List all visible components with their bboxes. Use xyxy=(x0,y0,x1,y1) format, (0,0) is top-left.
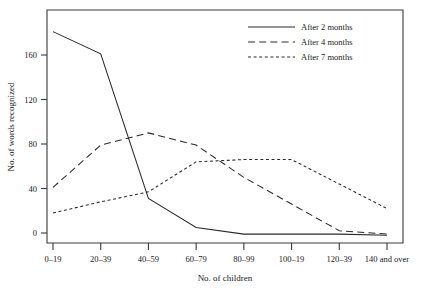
series-line-2 xyxy=(53,133,387,234)
legend-label-3: After 7 months xyxy=(301,52,352,62)
y-tick-label: 80 xyxy=(29,139,38,149)
x-tick-label: 100–19 xyxy=(279,254,305,264)
chart-figure: 04080120160 0–1920–3940–5960–7980–99100–… xyxy=(0,0,445,290)
y-tick-label: 0 xyxy=(33,228,37,238)
chart-legend: After 2 monthsAfter 4 monthsAfter 7 mont… xyxy=(248,22,352,62)
x-tick-label: 80–99 xyxy=(233,254,254,264)
x-tick-label: 120–39 xyxy=(327,254,353,264)
x-tick-label: 60–79 xyxy=(186,254,207,264)
legend-label-1: After 2 months xyxy=(301,22,352,32)
legend-label-2: After 4 months xyxy=(301,37,352,47)
y-axis-ticks: 04080120160 xyxy=(24,50,47,238)
y-tick-label: 40 xyxy=(29,184,38,194)
x-tick-label: 40–59 xyxy=(138,254,159,264)
x-tick-label: 20–39 xyxy=(90,254,111,264)
x-axis-title: No. of children xyxy=(198,273,253,283)
x-tick-label: 0–19 xyxy=(45,254,62,264)
x-tick-label: 140 and over xyxy=(365,254,410,264)
series-line-3 xyxy=(53,160,387,213)
line-chart: 04080120160 0–1920–3940–5960–7980–99100–… xyxy=(0,0,445,290)
y-axis-title: No. of words recognized xyxy=(6,82,16,171)
x-axis-ticks: 0–1920–3940–5960–7980–99100–19120–39140 … xyxy=(45,243,410,264)
y-tick-label: 120 xyxy=(24,95,37,105)
y-tick-label: 160 xyxy=(24,50,37,60)
